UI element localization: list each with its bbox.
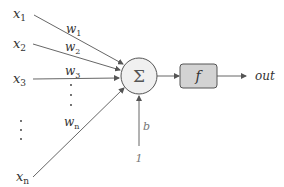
weight-w3: w3 xyxy=(65,64,80,80)
input-x1: x1 xyxy=(13,6,26,23)
input-x2: x2 xyxy=(13,36,26,53)
output-label: out xyxy=(255,69,275,83)
bias-input-label: 1 xyxy=(136,152,143,165)
sum-symbol: Σ xyxy=(133,66,145,86)
weight-w2: w2 xyxy=(65,40,80,56)
perceptron-diagram: Σ f out x1 x2 x3 xn w1 w2 w3 wn b 1 xyxy=(0,0,284,187)
inputs-ellipsis xyxy=(20,120,22,140)
input-xn: xn xyxy=(16,169,29,186)
edge-xn xyxy=(33,88,124,177)
weight-wn: wn xyxy=(64,115,79,131)
edge-x1 xyxy=(34,15,123,64)
bias-weight-label: b xyxy=(143,120,150,133)
weights-ellipsis xyxy=(70,84,72,106)
input-x3: x3 xyxy=(13,71,26,88)
weight-w1: w1 xyxy=(66,22,81,38)
